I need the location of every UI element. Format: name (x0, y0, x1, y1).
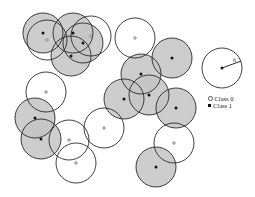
radius-demo: h (202, 48, 242, 88)
class1-point (72, 32, 75, 35)
class1-point (82, 42, 85, 45)
class1-point (175, 107, 178, 110)
class1-point (155, 166, 158, 169)
radius-label: h (233, 57, 236, 63)
legend-class1: Class 1 (208, 102, 233, 109)
class0-point (75, 162, 77, 164)
class1-point (171, 57, 174, 60)
class0-point (173, 142, 175, 144)
class1-point (42, 32, 45, 35)
radius-line (222, 61, 241, 68)
legend-class0: Class 0 (208, 95, 233, 102)
class0-marker-icon (208, 96, 213, 101)
class1-marker-icon (208, 104, 211, 107)
radius-demo-center (221, 67, 224, 70)
class1-fills (15, 13, 196, 187)
class1-point (40, 138, 43, 141)
class1-point (148, 94, 151, 97)
class1-point (140, 73, 143, 76)
class1-point (34, 117, 37, 120)
class0-point (134, 37, 136, 39)
legend-class1-label: Class 1 (213, 102, 232, 109)
class0-point (45, 91, 47, 93)
legend-class0-label: Class 0 (215, 95, 234, 102)
class1-point (70, 55, 73, 58)
class1-point (123, 98, 126, 101)
class0-point (103, 127, 105, 129)
class0-point (68, 139, 70, 141)
legend: Class 0 Class 1 (208, 95, 233, 109)
class0-point (46, 39, 48, 41)
class0-point (90, 35, 92, 37)
